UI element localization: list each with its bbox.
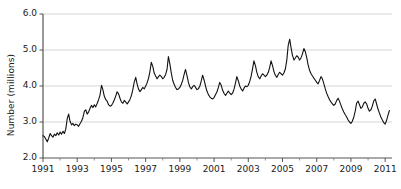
series-line-number-millions <box>43 39 389 142</box>
x-tick-label: 1999 <box>163 164 197 174</box>
y-tick-label: 6.0 <box>15 8 37 18</box>
y-axis-title: Number (millions) <box>6 40 16 150</box>
x-tick-label: 1995 <box>94 164 128 174</box>
x-tick-label: 2001 <box>197 164 231 174</box>
y-tick-label: 5.0 <box>15 44 37 54</box>
y-tick-label: 3.0 <box>15 116 37 126</box>
x-tick-label: 2005 <box>266 164 300 174</box>
x-tick-label: 2011 <box>368 164 401 174</box>
x-tick-label: 1997 <box>129 164 163 174</box>
x-tick-label: 2009 <box>334 164 368 174</box>
x-tick-label: 2003 <box>231 164 265 174</box>
y-tick-label: 2.0 <box>15 152 37 162</box>
x-tick-label: 1991 <box>26 164 60 174</box>
y-tick-label: 4.0 <box>15 80 37 90</box>
x-tick-label: 1993 <box>60 164 94 174</box>
axis-ticks <box>40 14 386 162</box>
x-tick-label: 2007 <box>300 164 334 174</box>
